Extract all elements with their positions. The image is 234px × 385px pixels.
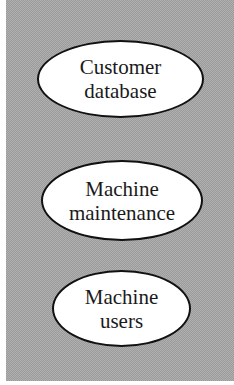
node-label-line: Machine (85, 285, 158, 309)
customer-database-node: Customer database (37, 40, 204, 118)
machine-maintenance-node: Machine maintenance (41, 160, 203, 241)
node-label-line: maintenance (69, 201, 175, 225)
node-label-line: database (84, 79, 156, 103)
node-label-line: Machine (85, 177, 158, 201)
machine-users-node: Machine users (52, 270, 191, 347)
node-label-line: Customer (80, 55, 162, 79)
node-label-line: users (100, 309, 143, 333)
